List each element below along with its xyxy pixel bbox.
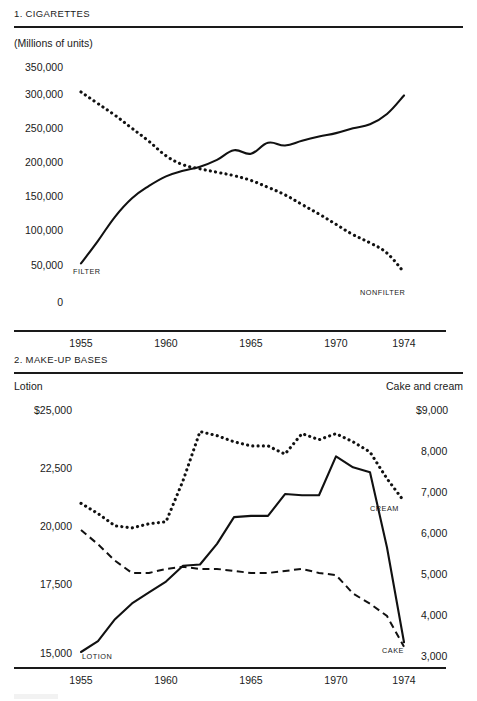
x-tick-1970: 1970 — [313, 337, 359, 349]
filter-label: FILTER — [73, 267, 101, 276]
cigarettes-chart-panel: 1. CIGARETTES (Millions of units) 350,00… — [0, 0, 477, 352]
filter-series-line — [81, 95, 404, 263]
cake-series-line — [81, 530, 404, 647]
x-tick-1960: 1960 — [143, 674, 189, 686]
page-edge-artifact — [14, 694, 58, 699]
lotion-label: LOTION — [82, 652, 112, 661]
cream-label: CREAM — [370, 504, 399, 513]
cream-series-line — [81, 432, 404, 528]
x-tick-1955: 1955 — [58, 337, 104, 349]
x-tick-1974: 1974 — [381, 674, 427, 686]
x-tick-1960: 1960 — [143, 337, 189, 349]
x-tick-1965: 1965 — [228, 337, 274, 349]
x-tick-1955: 1955 — [58, 674, 104, 686]
nonfilter-label: NONFILTER — [360, 288, 405, 297]
nonfilter-series-line — [81, 92, 404, 272]
lotion-series-line — [81, 456, 404, 652]
cake-label: CAKE — [382, 646, 404, 655]
cigarettes-plot-area — [0, 0, 477, 352]
makeup-plot-area — [0, 352, 477, 701]
x-tick-1974: 1974 — [381, 337, 427, 349]
cigarettes-x-axis-line — [14, 330, 446, 332]
makeup-bases-chart-panel: 2. MAKE-UP BASES Lotion Cake and cream $… — [0, 352, 477, 701]
x-tick-1970: 1970 — [313, 674, 359, 686]
makeup-x-axis-line — [14, 667, 446, 669]
x-tick-1965: 1965 — [228, 674, 274, 686]
